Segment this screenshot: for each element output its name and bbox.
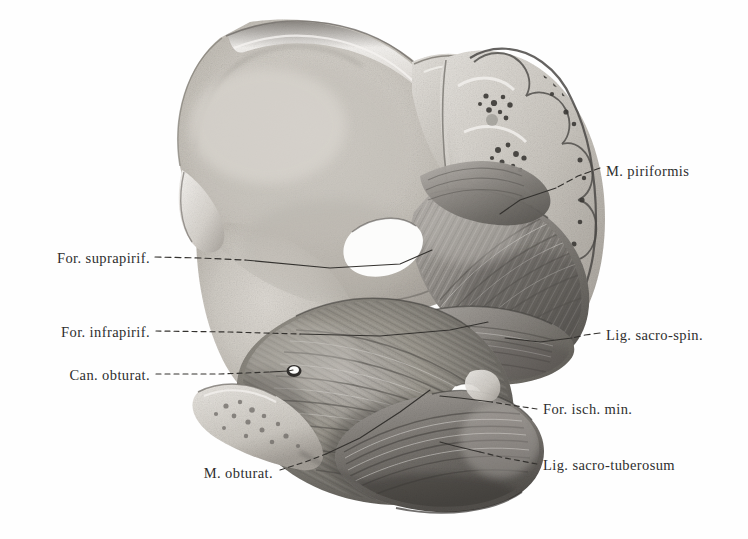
label-for-infrapirif: For. infrapirif.: [61, 325, 150, 340]
label-m-piriformis: M. piriformis: [606, 164, 689, 179]
label-lig-sacro-tuberosum: Lig. sacro-tuberosum: [543, 458, 675, 473]
label-m-obturat: M. obturat.: [204, 466, 273, 481]
label-can-obturat: Can. obturat.: [69, 368, 150, 383]
label-for-suprapirif: For. suprapirif.: [57, 251, 150, 266]
label-for-isch-min: For. isch. min.: [543, 402, 632, 417]
label-lig-sacro-spin: Lig. sacro-spin.: [606, 328, 703, 343]
